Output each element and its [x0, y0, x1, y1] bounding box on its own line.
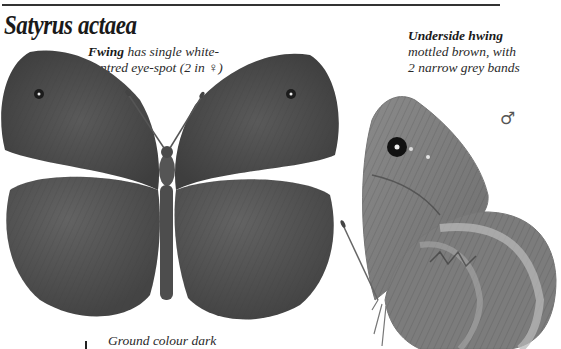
underside-legs [372, 300, 386, 346]
head [161, 146, 173, 158]
thorax [159, 154, 175, 186]
underside-butterfly [339, 97, 556, 349]
abdomen [160, 185, 173, 300]
upperside-butterfly [1, 51, 339, 320]
butterfly-illustrations [0, 0, 561, 349]
